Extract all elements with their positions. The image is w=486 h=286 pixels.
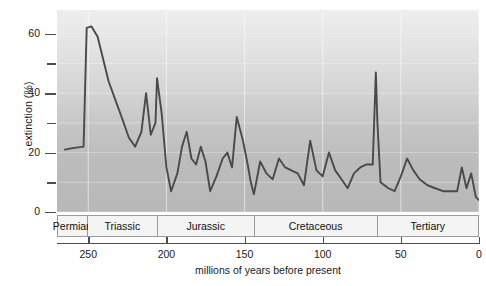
x-tick-label-150: 150 [225,248,265,260]
period-band-permian: Permian [58,216,88,236]
y-axis-tick-labels: 0204060 [14,0,40,286]
y-tick-mark-minor-10 [47,182,56,183]
period-band-label: Jurassic [186,220,225,232]
x-tick-label-0: 0 [459,248,486,260]
period-band-label: Triassic [104,220,140,232]
period-band-tertiary: Tertiary [378,216,479,236]
extinction-line-path [65,26,479,200]
period-band-label: Permian [53,220,92,232]
y-tick-label-60: 60 [14,28,40,39]
plot-area [57,10,479,212]
period-band-cretaceous: Cretaceous [255,216,378,236]
y-tick-mark-minor-30 [47,123,56,124]
x-tick-mark-250 [88,237,89,244]
y-tick-mark-20 [45,153,56,154]
period-band-triassic: Triassic [88,216,158,236]
period-band-label: Cretaceous [289,220,343,232]
period-band-jurassic: Jurassic [158,216,255,236]
x-tick-label-50: 50 [381,248,421,260]
x-tick-mark-100 [323,237,324,244]
x-tick-mark-0 [479,237,480,244]
y-tick-label-40: 40 [14,87,40,98]
x-axis-title: millions of years before present [57,264,479,276]
period-band-label: Tertiary [411,220,445,232]
y-tick-mark-60 [45,34,56,35]
x-tick-label-200: 200 [146,248,186,260]
x-tick-mark-200 [166,237,167,244]
y-tick-mark-minor-50 [47,63,56,64]
x-tick-label-250: 250 [68,248,108,260]
extinction-line-series [57,10,479,212]
x-axis-line [57,243,479,244]
y-tick-mark-40 [45,93,56,94]
y-tick-mark-0 [45,212,56,213]
y-tick-label-20: 20 [14,147,40,158]
y-tick-label-0: 0 [14,206,40,217]
x-tick-label-100: 100 [303,248,343,260]
x-tick-mark-150 [245,237,246,244]
extinction-chart-figure: extinction (%) 0204060 PermianTriassicJu… [0,0,486,286]
geologic-period-band: PermianTriassicJurassicCretaceousTertiar… [57,215,479,237]
x-tick-mark-50 [401,237,402,244]
